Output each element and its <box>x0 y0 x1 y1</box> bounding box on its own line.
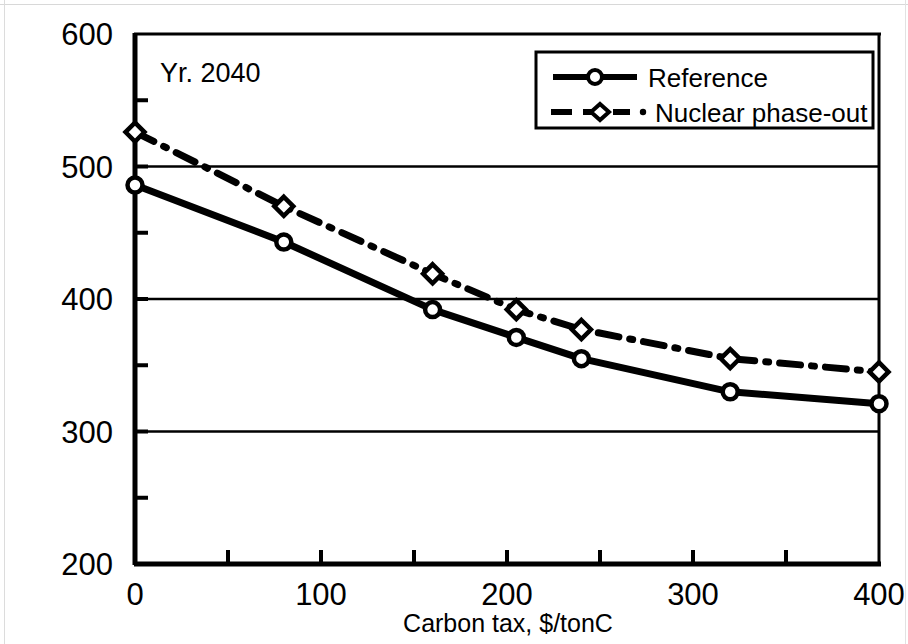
data-point-marker-circle <box>723 384 738 399</box>
y-tick-label: 400 <box>61 282 113 317</box>
y-tick-label: 500 <box>61 150 113 185</box>
legend: Reference Nuclear phase-out <box>536 52 873 128</box>
line-chart: 200300400500600 0100200300400 Yr. 2040 C… <box>0 0 908 644</box>
y-tick-label: 300 <box>61 415 113 450</box>
data-point-marker-diamond <box>721 349 740 368</box>
series-line <box>135 185 879 404</box>
year-annotation: Yr. 2040 <box>160 58 261 88</box>
x-tick-label: 300 <box>667 577 719 612</box>
x-axis-tick-labels: 0100200300400 <box>126 577 904 612</box>
data-point-marker-circle <box>872 396 887 411</box>
data-point-marker-circle <box>425 302 440 317</box>
data-point-marker-circle <box>574 351 589 366</box>
x-tick-label: 400 <box>853 577 905 612</box>
data-point-marker-circle <box>509 330 524 345</box>
x-axis-title: Carbon tax, $/tonC <box>403 609 613 637</box>
x-tick-label: 200 <box>481 577 533 612</box>
legend-label-reference: Reference <box>648 63 768 93</box>
y-tick-label: 600 <box>61 17 113 52</box>
data-point-marker-diamond <box>507 300 526 319</box>
series-nuclear-phase-out <box>126 123 889 382</box>
chart-page: 200300400500600 0100200300400 Yr. 2040 C… <box>0 0 908 644</box>
legend-label-nuclear-phase-out: Nuclear phase-out <box>655 98 868 128</box>
data-point-marker-circle <box>276 235 291 250</box>
legend-dot-icon <box>640 109 646 115</box>
y-tick-label: 200 <box>61 547 113 582</box>
legend-marker-circle-icon <box>588 70 602 84</box>
data-point-marker-diamond <box>870 362 889 381</box>
data-point-marker-diamond <box>572 320 591 339</box>
y-axis-tick-labels: 200300400500600 <box>61 17 113 582</box>
x-tick-label: 100 <box>295 577 347 612</box>
series-reference <box>128 178 887 412</box>
data-point-marker-circle <box>128 178 143 193</box>
x-tick-label: 0 <box>126 577 143 612</box>
